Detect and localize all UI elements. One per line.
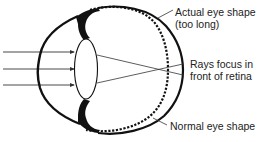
label-normal-line1: Normal eye shape [170, 120, 255, 132]
refracted-ray-top [97, 55, 183, 75]
iris-top-shape [76, 8, 100, 40]
label-actual-line2: (too long) [175, 18, 256, 30]
label-normal-eye-shape: Normal eye shape [170, 120, 255, 132]
cornea-curve [38, 16, 80, 124]
refracted-ray-bottom [97, 64, 183, 83]
label-rays-focus: Rays focus in front of retina [190, 58, 253, 82]
label-rays-line1: Rays focus in [190, 58, 253, 70]
eye-diagram: Actual eye shape (too long) Rays focus i… [0, 0, 257, 142]
label-rays-line2: front of retina [190, 70, 253, 82]
leader-actual-shape [158, 10, 173, 18]
label-actual-line1: Actual eye shape [175, 6, 256, 18]
label-actual-eye-shape: Actual eye shape (too long) [175, 6, 256, 30]
refracted-rays [97, 55, 183, 83]
iris-bottom-shape [78, 99, 100, 133]
lens-ellipse [75, 39, 98, 99]
actual-eye-outline [98, 7, 183, 134]
